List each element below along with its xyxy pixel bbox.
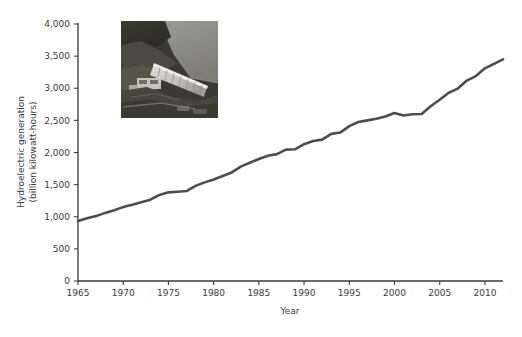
- x-tick-label: 1990: [293, 288, 316, 298]
- x-tick-label: 1995: [338, 288, 361, 298]
- x-axis: 1965197019751980198519901995200020052010: [67, 281, 503, 298]
- y-tick-label: 500: [53, 244, 70, 254]
- y-tick-label: 2,000: [44, 148, 70, 158]
- x-tick-label: 2000: [383, 288, 406, 298]
- y-axis: 05001,0001,5002,0002,5003,0003,5004,000: [44, 19, 78, 286]
- y-axis-title-line1: Hydroelectric generation: [16, 96, 26, 208]
- y-tick-label: 3,500: [44, 51, 70, 61]
- y-tick-label: 4,000: [44, 19, 70, 29]
- x-tick-label: 2005: [428, 288, 451, 298]
- chart-figure: 05001,0001,5002,0002,5003,0003,5004,000 …: [0, 0, 522, 337]
- x-axis-title: Year: [279, 306, 299, 316]
- x-tick-label: 1965: [67, 288, 90, 298]
- y-axis-title-line2: (billion kilowatt-hours): [28, 101, 38, 202]
- x-tick-label: 1980: [202, 288, 225, 298]
- y-tick-label: 0: [64, 276, 70, 286]
- hydroelectric-generation-line-chart: 05001,0001,5002,0002,5003,0003,5004,000 …: [0, 0, 522, 337]
- x-tick-label: 1970: [112, 288, 135, 298]
- x-tick-label: 1975: [157, 288, 180, 298]
- y-tick-label: 2,500: [44, 116, 70, 126]
- x-tick-label: 2010: [473, 288, 496, 298]
- hydroelectric-dam-photo: [121, 21, 218, 118]
- x-tick-label: 1985: [247, 288, 270, 298]
- y-tick-label: 1,500: [44, 180, 70, 190]
- y-tick-label: 3,000: [44, 83, 70, 93]
- dam-photo-artwork: [121, 21, 218, 118]
- y-tick-label: 1,000: [44, 212, 70, 222]
